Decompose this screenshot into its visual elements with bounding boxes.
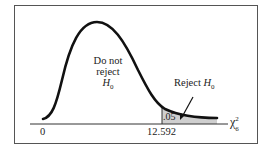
reject-arrow bbox=[182, 97, 193, 117]
accept-line-1: Do not bbox=[88, 55, 128, 66]
accept-h0: H0 bbox=[88, 77, 128, 93]
tick-critical: 12.592 bbox=[147, 126, 176, 137]
density-curve bbox=[43, 22, 217, 119]
reject-region-label: Reject H0 bbox=[174, 77, 215, 93]
accept-region-label: Do not reject H0 bbox=[88, 55, 128, 93]
accept-line-2: reject bbox=[88, 66, 128, 77]
x-axis-label: χ26 bbox=[230, 117, 235, 130]
alpha-label: .05 bbox=[163, 111, 176, 122]
tick-zero: 0 bbox=[40, 126, 45, 137]
